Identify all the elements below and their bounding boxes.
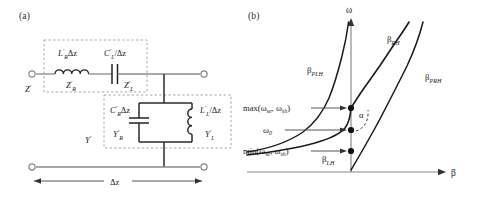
series-capacitor-label: C′L/Δz xyxy=(104,47,126,60)
shunt-inductor-LL xyxy=(188,109,192,134)
omega-zero-marker-dot xyxy=(348,127,354,133)
port-1-top-terminal xyxy=(29,71,35,77)
max-omega-marker-dot xyxy=(348,105,354,111)
max-omega-marker-label: max(ωse, ωsh) xyxy=(243,103,290,114)
panel-b-dispersion: (b) β ω α xyxy=(239,0,479,197)
panel-b-label: (b) xyxy=(248,11,260,21)
series-inductor-LR xyxy=(55,70,89,74)
beta-axis-arrowhead xyxy=(438,169,446,175)
beta-prh-curve-label: βPRH xyxy=(425,72,442,84)
alpha-angle-label: α xyxy=(359,110,364,120)
panel-a-label: (a) xyxy=(19,11,30,21)
dispersion-diagram-svg: β ω α xyxy=(239,0,479,197)
beta-rh-curve-label: βRH xyxy=(387,34,400,46)
shunt-admittance-YL-label: Y′L xyxy=(205,128,214,141)
shunt-capacitor-label: C′RΔz xyxy=(110,104,130,117)
dimension-arrowhead-right xyxy=(195,178,202,184)
circuit-diagram-svg: L′RΔz C′L/Δz Z′R Z′L Z′ C′RΔz xyxy=(0,0,240,197)
omega-zero-leader-arrowhead xyxy=(340,127,347,132)
min-omega-marker-dot xyxy=(348,148,354,154)
dimension-label-deltaz: Δz xyxy=(110,177,120,187)
series-impedance-ZR-label: Z′R xyxy=(66,79,76,92)
max-omega-leader-arrowhead xyxy=(340,105,347,110)
beta-lh-curve-label: βLH xyxy=(322,154,335,166)
shunt-inductor-label: L′L/Δz xyxy=(199,104,221,117)
panel-a-circuit: (a) xyxy=(0,0,240,197)
series-total-impedance-label: Z′ xyxy=(25,83,32,94)
shunt-admittance-YR-label: Y′R xyxy=(113,128,123,141)
beta-axis-label: β xyxy=(451,168,456,178)
port-2-bottom-terminal xyxy=(201,164,207,170)
figure-root: (a) xyxy=(0,0,479,197)
min-omega-leader-arrowhead xyxy=(340,148,347,153)
series-impedance-ZL-label: Z′L xyxy=(124,79,133,92)
port-1-bottom-terminal xyxy=(29,164,35,170)
beta-prh-curve xyxy=(351,22,423,170)
series-inductor-label: L′RΔz xyxy=(57,47,77,60)
beta-plh-curve-label: βPLH xyxy=(307,65,324,77)
beta-rh-curve xyxy=(351,22,409,108)
omega-zero-marker-label: ω0 xyxy=(263,125,272,136)
shunt-total-admittance-label: Y′ xyxy=(85,134,92,145)
port-2-top-terminal xyxy=(201,71,207,77)
dimension-arrowhead-left xyxy=(34,178,41,184)
omega-axis-label: ω xyxy=(346,5,352,15)
